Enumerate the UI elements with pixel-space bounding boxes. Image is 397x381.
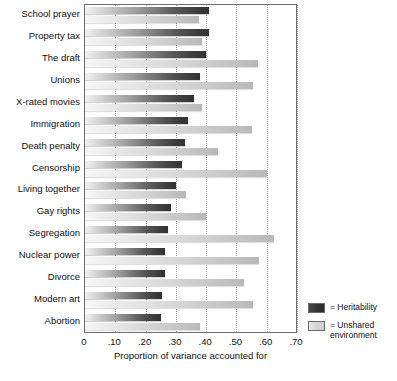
legend-swatch-light — [308, 321, 325, 331]
bar-unshared-environment — [85, 257, 259, 264]
bar-chart: School prayerProperty taxThe draftUnions… — [0, 0, 397, 381]
bar-row — [85, 73, 296, 93]
bar-row — [85, 248, 296, 268]
bar-heritability — [85, 314, 161, 321]
x-tick-label: .20 — [138, 336, 151, 347]
bar-unshared-environment — [85, 279, 244, 286]
bar-heritability — [85, 117, 188, 124]
bar-unshared-environment — [85, 104, 202, 111]
bar-heritability — [85, 226, 168, 233]
gridline-.70 — [297, 5, 298, 332]
bar-row — [85, 182, 296, 202]
x-tick-label: .30 — [168, 336, 181, 347]
x-axis-title: Proportion of variance accounted for — [84, 350, 297, 361]
bar-heritability — [85, 7, 209, 14]
bar-unshared-environment — [85, 235, 274, 242]
bar-heritability — [85, 292, 162, 299]
category-label: Censorship — [0, 163, 80, 173]
bar-row — [85, 139, 296, 159]
bar-heritability — [85, 51, 206, 58]
bar-unshared-environment — [85, 191, 186, 198]
bar-unshared-environment — [85, 148, 218, 155]
category-label: Gay rights — [0, 206, 80, 216]
bar-unshared-environment — [85, 16, 199, 23]
chart-legend: = Heritability= Unshared environment — [308, 302, 396, 347]
bar-unshared-environment — [85, 126, 252, 133]
bar-unshared-environment — [85, 82, 253, 89]
bar-unshared-environment — [85, 323, 200, 330]
bar-unshared-environment — [85, 60, 258, 67]
category-label: The draft — [0, 53, 80, 63]
legend-label: = Heritability — [330, 302, 377, 312]
x-tick-label: .10 — [108, 336, 121, 347]
category-label: Unions — [0, 75, 80, 85]
category-label: Divorce — [0, 272, 80, 282]
x-tick-label: 0 — [81, 336, 86, 347]
bar-unshared-environment — [85, 301, 253, 308]
legend-swatch-dark — [308, 303, 325, 313]
bar-unshared-environment — [85, 170, 267, 177]
bar-heritability — [85, 248, 165, 255]
bar-heritability — [85, 270, 165, 277]
bar-row — [85, 29, 296, 49]
legend-item: = Heritability — [308, 302, 396, 313]
legend-item: = Unshared environment — [308, 320, 396, 340]
bar-row — [85, 95, 296, 115]
category-label: Living together — [0, 184, 80, 194]
x-tick-label: .40 — [199, 336, 212, 347]
bar-heritability — [85, 139, 185, 146]
category-label: School prayer — [0, 9, 80, 19]
bar-unshared-environment — [85, 38, 202, 45]
x-tick-label: .60 — [259, 336, 272, 347]
bar-heritability — [85, 95, 194, 102]
category-label: Segregation — [0, 228, 80, 238]
bar-row — [85, 51, 296, 71]
category-label: Property tax — [0, 31, 80, 41]
bar-row — [85, 161, 296, 181]
bar-heritability — [85, 29, 209, 36]
category-label: X-rated movies — [0, 97, 80, 107]
category-label: Modern art — [0, 294, 80, 304]
category-label: Death penalty — [0, 141, 80, 151]
bar-row — [85, 292, 296, 312]
bar-heritability — [85, 161, 182, 168]
bar-unshared-environment — [85, 213, 206, 220]
plot-area — [84, 4, 297, 333]
bar-row — [85, 270, 296, 290]
category-label: Nuclear power — [0, 250, 80, 260]
bar-heritability — [85, 73, 200, 80]
legend-label: = Unshared environment — [330, 320, 396, 340]
bar-row — [85, 204, 296, 224]
bar-row — [85, 7, 296, 27]
bar-row — [85, 314, 296, 334]
bar-heritability — [85, 182, 176, 189]
x-tick-label: .50 — [229, 336, 242, 347]
bar-heritability — [85, 204, 171, 211]
bar-rows — [85, 5, 296, 332]
x-tick-label: .70 — [289, 336, 302, 347]
bar-row — [85, 117, 296, 137]
category-label: Abortion — [0, 316, 80, 326]
category-label: Immigration — [0, 119, 80, 129]
bar-row — [85, 226, 296, 246]
